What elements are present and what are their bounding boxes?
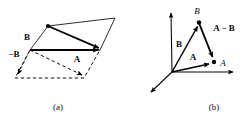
upper-parallelogram (30, 18, 115, 50)
axis-diagonal (151, 72, 172, 92)
vector-A-arrow-b (172, 64, 209, 72)
label-vector-A-b: A (190, 52, 197, 62)
label-vector-B: B (24, 32, 30, 42)
point-B-dot (197, 20, 201, 24)
point-A-dot (212, 60, 216, 64)
caption-panel-b: (b) (209, 102, 220, 112)
point-label-B: B (194, 6, 200, 16)
vector-subtraction-figure: B −B A (a) B A B (0, 0, 248, 117)
figure-canvas: B −B A (a) B A B (0, 0, 248, 117)
label-vector-A: A (74, 54, 81, 64)
label-vector-minus-B: −B (8, 49, 19, 59)
caption-panel-a: (a) (53, 102, 63, 112)
label-vector-A-minus-B-b: A − B (213, 23, 235, 33)
vector-diagonal-arrow (48, 26, 99, 48)
panel-a-group: B −B A (a) (8, 18, 115, 112)
lower-parallelogram-dashed (15, 50, 100, 78)
panel-b-group: B A B A A − B (b) (151, 6, 235, 112)
point-label-A: A (219, 58, 226, 68)
vertex-dot-B (46, 24, 50, 28)
axis-vertical (171, 13, 172, 72)
vector-B-arrow (172, 27, 198, 73)
vector-A-minus-B-arrow-b (199, 23, 213, 57)
label-vector-B-b: B (176, 39, 182, 49)
